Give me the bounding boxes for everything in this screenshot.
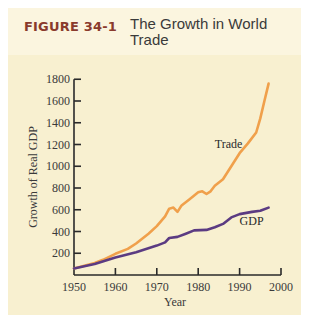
x-tick-label: 1990 xyxy=(228,280,252,294)
y-tick-label: 200 xyxy=(52,246,70,260)
x-tick-label: 1980 xyxy=(186,280,210,294)
axes: 2004006008001000120014001600180019501960… xyxy=(26,72,293,309)
series-lines xyxy=(74,84,269,269)
y-tick-label: 600 xyxy=(52,203,70,217)
trade-label: Trade xyxy=(215,137,243,151)
gdp-label: GDP xyxy=(240,214,264,228)
x-tick-label: 2000 xyxy=(269,280,293,294)
y-tick-label: 400 xyxy=(52,225,70,239)
y-tick-label: 800 xyxy=(52,181,70,195)
trade-line xyxy=(74,84,269,269)
y-tick-label: 1800 xyxy=(46,72,70,86)
x-tick-label: 1950 xyxy=(62,280,86,294)
y-tick-label: 1400 xyxy=(46,116,70,130)
x-tick-label: 1970 xyxy=(145,280,169,294)
series-labels: TradeGDP xyxy=(215,137,264,228)
y-tick-label: 1200 xyxy=(46,138,70,152)
line-chart: 2004006008001000120014001600180019501960… xyxy=(0,0,312,326)
y-tick-label: 1000 xyxy=(46,159,70,173)
y-tick-label: 1600 xyxy=(46,94,70,108)
x-tick-label: 1960 xyxy=(103,280,127,294)
y-axis-title: Growth of Real GDP xyxy=(26,126,40,228)
x-axis-title: Year xyxy=(164,295,186,309)
